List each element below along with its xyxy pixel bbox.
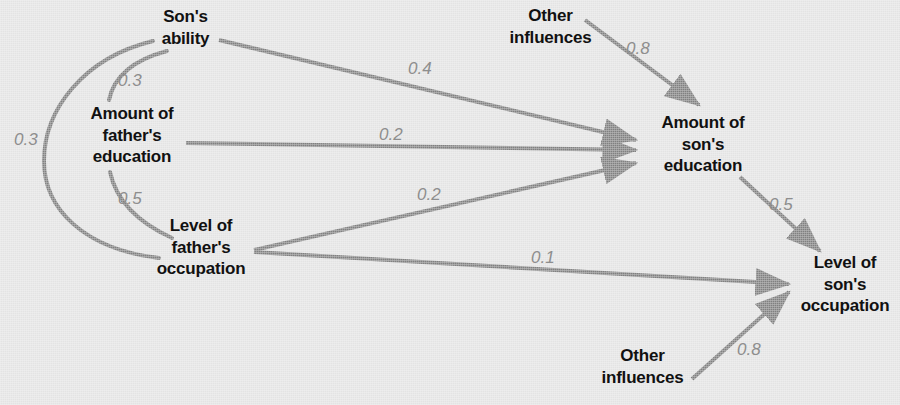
- node-fathers-education: Amount of father's education: [73, 103, 191, 168]
- edge-sons-education-to-sons-occupation: [740, 177, 820, 251]
- coef-sons-education-sons-occupation: 0.5: [769, 196, 793, 214]
- coef-other-sons-education: 0.8: [626, 40, 650, 58]
- coef-ability-sons-education: 0.4: [408, 60, 432, 78]
- path-diagram: Son's ability Amount of father's educati…: [0, 0, 900, 405]
- coef-fathers-occupation-sons-education: 0.2: [417, 186, 441, 204]
- edge-ability-to-sons-education: [219, 40, 636, 140]
- node-sons-ability: Son's ability: [133, 6, 238, 49]
- node-sons-education: Amount of son's education: [644, 112, 762, 177]
- edge-fathers-occupation-to-sons-education: [254, 163, 636, 250]
- node-fathers-occupation: Level of father's occupation: [141, 215, 261, 280]
- edge-other-influences-to-sons-occupation: [692, 292, 789, 379]
- edge-fathers-education-to-sons-education: [186, 143, 636, 150]
- coef-ability-fathers-occupation: 0.3: [14, 131, 38, 149]
- coef-fathers-occupation-sons-occupation: 0.1: [531, 249, 555, 267]
- coef-fathers-education-sons-education: 0.2: [379, 126, 403, 144]
- edge-fathers-occupation-to-sons-occupation: [254, 252, 789, 284]
- coef-ability-fathers-education: 0.3: [118, 72, 142, 90]
- coef-fathers-education-occupation: 0.5: [118, 190, 142, 208]
- node-other-influences-occupation: Other influences: [590, 345, 695, 388]
- coef-other-sons-occupation: 0.8: [737, 341, 761, 359]
- node-other-influences-education: Other influences: [498, 5, 603, 48]
- node-sons-occupation: Level of son's occupation: [790, 252, 900, 317]
